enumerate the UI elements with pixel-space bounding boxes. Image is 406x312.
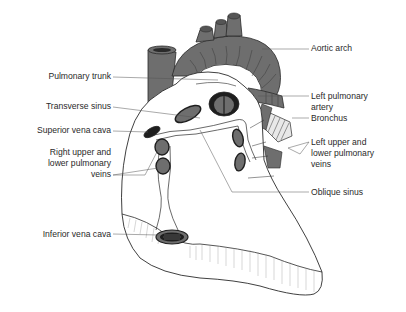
label-superior-vena-cava: Superior vena cava: [10, 125, 111, 136]
inferior-vena-cava-opening: [156, 230, 188, 244]
label-right-pulmonary-veins: Right upper and lower pulmonary veins: [20, 147, 111, 180]
label-left-pulmonary-veins: Left upper and lower pulmonary veins: [311, 137, 374, 170]
label-bronchus: Bronchus: [311, 113, 347, 124]
label-oblique-sinus: Oblique sinus: [311, 187, 363, 198]
label-pulmonary-trunk: Pulmonary trunk: [33, 71, 111, 82]
label-aortic-arch: Aortic arch: [311, 43, 352, 54]
label-inferior-vena-cava: Inferior vena cava: [14, 229, 111, 240]
label-transverse-sinus: Transverse sinus: [23, 101, 111, 112]
label-left-pulmonary-artery: Left pulmonary artery: [311, 91, 368, 113]
